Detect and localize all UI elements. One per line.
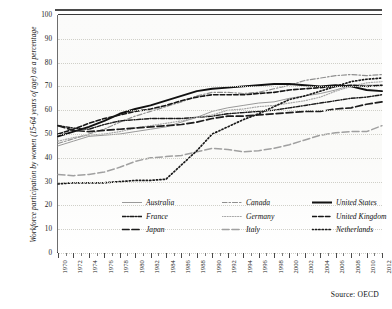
x-tick-label: 1986 [184,260,191,274]
legend-swatch-icon [122,226,142,233]
x-tick-major [243,253,244,258]
x-tick-label: 2008 [354,260,361,274]
y-tick-label: 70 [28,82,52,90]
legend-item-netherlands[interactable]: Netherlands [312,223,373,236]
x-tick-major [212,253,213,258]
x-tick-minor [158,253,159,256]
x-tick-label: 2010 [369,260,376,274]
x-tick-minor [359,253,360,256]
x-tick-label: 1970 [61,260,68,274]
y-tick-label: 50 [28,130,52,138]
x-tick-major [151,253,152,258]
legend-label: Germany [246,212,274,221]
legend-label: Japan [146,225,165,234]
series-line-netherlands [58,78,382,184]
title-divider-rule [55,9,382,11]
x-tick-major [181,253,182,258]
x-tick-label: 2002 [307,260,314,274]
legend-swatch-icon [122,213,142,220]
x-tick-minor [174,253,175,256]
legend-label: Italy [246,225,260,234]
legend-item-canada[interactable]: Canada [222,196,270,209]
source-note: Source: OECD [331,290,379,299]
x-tick-label: 1980 [138,260,145,274]
x-tick-major [89,253,90,258]
legend-item-italy[interactable]: Italy [222,223,260,236]
x-tick-label: 1972 [76,260,83,274]
x-tick-minor [97,253,98,256]
legend-swatch-icon [312,226,332,233]
x-tick-minor [220,253,221,256]
legend-item-australia[interactable]: Australia [122,196,174,209]
x-tick-label: 1982 [153,260,160,274]
x-tick-label: 1984 [169,260,176,274]
x-tick-major [289,253,290,258]
legend-item-united-kingdom[interactable]: United Kingdom [312,210,386,223]
series-line-japan [58,102,382,132]
legend-item-united-states[interactable]: United States [312,196,377,209]
x-tick-major [274,253,275,258]
y-tick-label: 10 [28,225,52,233]
y-gridline [58,110,382,111]
x-tick-major [305,253,306,258]
x-tick-major [135,253,136,258]
x-tick-label: 1974 [91,260,98,274]
y-tick-label: 100 [28,11,52,19]
x-tick-minor [343,253,344,256]
x-tick-major [166,253,167,258]
y-tick-label: 20 [28,201,52,209]
y-gridline [58,134,382,135]
x-tick-major [382,253,383,258]
x-tick-minor [112,253,113,256]
x-tick-major [58,253,59,258]
x-tick-label: 2012 [385,260,392,274]
y-tick-label: 60 [28,106,52,114]
legend-item-france[interactable]: France [122,210,168,223]
x-tick-label: 1990 [215,260,222,274]
x-tick-minor [127,253,128,256]
legend-swatch-icon [122,199,142,206]
legend-swatch-icon [312,199,332,206]
x-tick-label: 1976 [107,260,114,274]
legend-row: AustraliaCanadaUnited States [62,196,362,209]
x-tick-label: 1988 [199,260,206,274]
y-gridline [58,158,382,159]
chart-title-cutoff [0,0,383,9]
chart-legend: AustraliaCanadaUnited StatesFranceGerman… [62,196,362,238]
x-tick-minor [235,253,236,256]
x-tick-label: 1996 [261,260,268,274]
x-tick-major [320,253,321,258]
legend-swatch-icon [222,213,242,220]
legend-row: JapanItalyNetherlands [62,223,362,236]
y-gridline [58,86,382,87]
x-tick-major [197,253,198,258]
x-tick-label: 1994 [246,260,253,274]
x-tick-major [228,253,229,258]
y-gridline [58,39,382,40]
x-tick-minor [81,253,82,256]
x-tick-minor [205,253,206,256]
legend-item-germany[interactable]: Germany [222,210,274,223]
x-tick-label: 1978 [122,260,129,274]
x-tick-major [120,253,121,258]
x-tick-minor [297,253,298,256]
legend-item-japan[interactable]: Japan [122,223,165,236]
x-tick-minor [143,253,144,256]
legend-swatch-icon [222,199,242,206]
legend-label: Canada [246,198,270,207]
legend-label: United Kingdom [336,212,386,221]
x-tick-major [351,253,352,258]
x-tick-minor [189,253,190,256]
x-tick-minor [251,253,252,256]
legend-swatch-icon [312,213,332,220]
x-tick-major [336,253,337,258]
x-tick-minor [66,253,67,256]
legend-label: France [146,212,168,221]
x-tick-major [104,253,105,258]
y-tick-label: 80 [28,59,52,67]
x-tick-label: 1998 [277,260,284,274]
x-tick-major [259,253,260,258]
y-tick-label: 0 [28,249,52,257]
y-gridline [58,182,382,183]
